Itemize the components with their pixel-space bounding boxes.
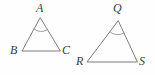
vertex-label-a: A bbox=[36, 2, 43, 14]
triangle-abc-outline bbox=[22, 18, 60, 51]
vertex-label-c: C bbox=[62, 44, 70, 56]
vertex-label-q: Q bbox=[113, 2, 122, 14]
vertex-label-b: B bbox=[10, 44, 17, 56]
angle-arc-q bbox=[110, 32, 124, 35]
triangle-abc bbox=[22, 18, 60, 51]
vertex-label-s: S bbox=[139, 55, 145, 67]
angle-arc-a bbox=[34, 29, 47, 32]
vertex-label-r: R bbox=[76, 55, 83, 67]
triangle-qrs bbox=[87, 21, 137, 62]
geometry-figure: A B C Q R S bbox=[0, 0, 155, 75]
triangle-qrs-outline bbox=[87, 21, 137, 62]
